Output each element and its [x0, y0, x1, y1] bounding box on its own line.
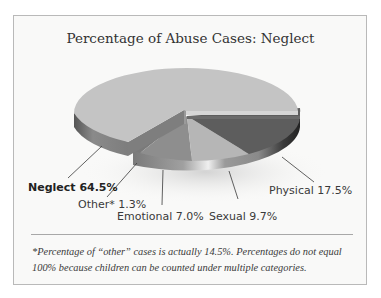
footnote-divider — [31, 234, 353, 235]
label-physical: Physical 17.5% — [269, 184, 352, 197]
label-neglect: Neglect 64.5% — [28, 181, 118, 194]
label-emotional: Emotional 7.0% — [117, 210, 204, 223]
physical-edge — [187, 116, 300, 119]
slice-neglect-cutface-right — [184, 110, 186, 124]
footnote: *Percentage of “other” cases is actually… — [32, 244, 357, 276]
neglect-edge — [186, 111, 298, 115]
label-sexual: Sexual 9.7% — [209, 210, 277, 223]
